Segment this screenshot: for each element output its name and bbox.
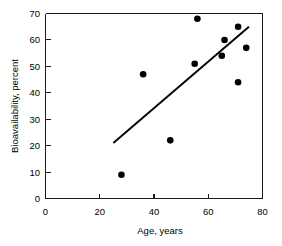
data-point: [221, 37, 228, 44]
x-tick-label-0: 0: [43, 206, 48, 217]
x-tick-label-60: 60: [203, 206, 214, 217]
y-tick-label-40: 40: [29, 87, 40, 98]
data-point: [235, 79, 242, 86]
x-tick-label-20: 20: [94, 206, 105, 217]
x-axis-tick-labels: 0 20 40 60 80: [43, 206, 268, 217]
y-tick-label-70: 70: [29, 8, 40, 19]
data-point: [191, 60, 198, 67]
data-point: [194, 15, 201, 22]
y-tick-label-20: 20: [29, 140, 40, 151]
x-axis-title: Age, years: [137, 225, 183, 236]
y-tick-label-30: 30: [29, 114, 40, 125]
y-tick-label-10: 10: [29, 167, 40, 178]
data-point-group: [118, 15, 249, 178]
scatter-plot-figure: 70 60 50 40 30 20 10 0 0 20 40 60 80 Age…: [0, 0, 282, 246]
y-axis-ticks: [46, 14, 51, 173]
chart-canvas: 70 60 50 40 30 20 10 0 0 20 40 60 80 Age…: [0, 0, 282, 246]
y-axis-tick-labels: 70 60 50 40 30 20 10 0: [29, 8, 40, 204]
data-point: [219, 52, 226, 59]
y-tick-label-60: 60: [29, 34, 40, 45]
regression-line: [113, 27, 249, 143]
y-axis-title: Bioavailability, percent: [9, 59, 20, 153]
data-point: [167, 137, 174, 144]
data-point: [140, 71, 147, 78]
data-point: [243, 45, 250, 52]
y-tick-label-50: 50: [29, 61, 40, 72]
x-tick-label-40: 40: [149, 206, 160, 217]
x-axis-ticks: [100, 194, 209, 199]
y-tick-label-0: 0: [35, 193, 40, 204]
x-tick-label-80: 80: [257, 206, 268, 217]
data-point: [235, 23, 242, 30]
plot-frame: [46, 14, 263, 199]
data-point: [118, 171, 125, 178]
